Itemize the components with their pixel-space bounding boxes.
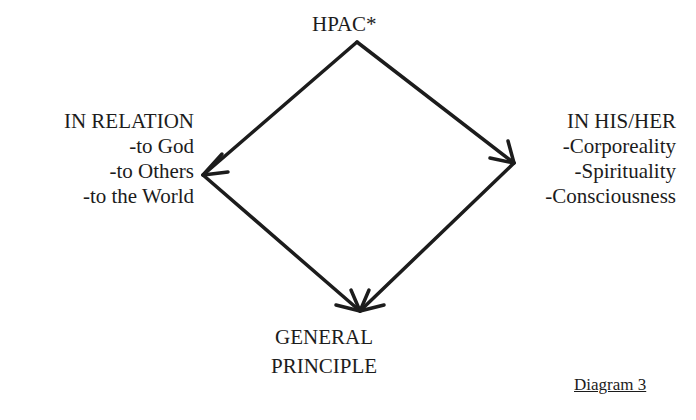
right-node: IN HIS/HER -Corporeality -Spirituality -… [545, 109, 676, 209]
left-node-item: -to the World [64, 184, 194, 209]
left-node-title: IN RELATION [64, 109, 194, 134]
left-node: IN RELATION -to God -to Others -to the W… [64, 109, 194, 209]
left-node-item: -to Others [64, 159, 194, 184]
diagram-caption: Diagram 3 [574, 375, 646, 395]
right-node-title: IN HIS/HER [545, 109, 676, 134]
bottom-node-line: GENERAL [271, 323, 377, 352]
edge-top-to-right [357, 42, 514, 163]
right-node-item: -Spirituality [545, 159, 676, 184]
bottom-node-line: PRINCIPLE [271, 352, 377, 381]
edge-right-to-bottom [360, 163, 514, 311]
edge-left-to-bottom [203, 175, 360, 311]
right-node-item: -Consciousness [545, 184, 676, 209]
left-node-item: -to God [64, 134, 194, 159]
edge-top-to-left [203, 42, 357, 175]
top-node-label: HPAC* [312, 12, 377, 37]
right-node-item: -Corporeality [545, 134, 676, 159]
diagram-canvas: HPAC* IN RELATION -to God -to Others -to… [0, 0, 696, 420]
bottom-node: GENERAL PRINCIPLE [271, 323, 377, 381]
